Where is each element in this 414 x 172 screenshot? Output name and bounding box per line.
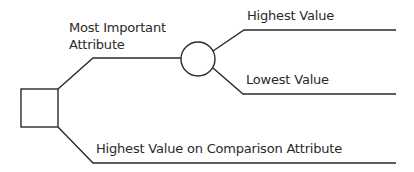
branch-highest-value bbox=[213, 30, 396, 51]
decision-node-square bbox=[21, 89, 58, 127]
branch-most-important-attribute bbox=[58, 58, 181, 89]
label-lowest-value: Lowest Value bbox=[246, 72, 329, 88]
decision-tree-diagram: Most Important Attribute Highest Value L… bbox=[0, 0, 414, 172]
label-most-important-line2: Attribute bbox=[69, 37, 125, 53]
label-most-important-line1: Most Important bbox=[69, 20, 166, 36]
label-highest-value: Highest Value bbox=[247, 8, 334, 24]
label-comparison-attribute: Highest Value on Comparison Attribute bbox=[96, 141, 342, 157]
chance-node-circle bbox=[181, 42, 215, 76]
